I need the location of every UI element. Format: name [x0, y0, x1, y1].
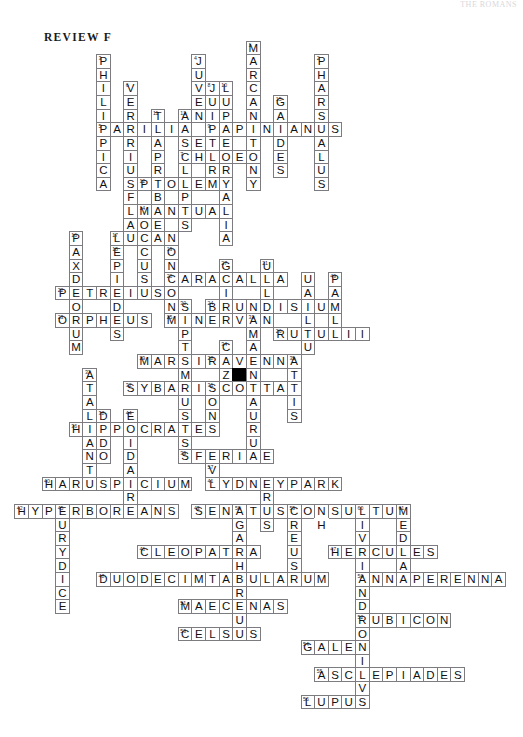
crossword-cell[interactable]: I: [355, 558, 370, 573]
crossword-cell[interactable]: 10L: [219, 81, 234, 96]
crossword-cell[interactable]: L: [151, 122, 166, 137]
crossword-cell[interactable]: S: [328, 667, 343, 682]
crossword-cell[interactable]: U: [341, 695, 356, 710]
crossword-cell[interactable]: N: [205, 409, 220, 424]
crossword-cell[interactable]: S: [178, 409, 193, 424]
crossword-cell[interactable]: U: [191, 68, 206, 83]
crossword-cell[interactable]: T: [82, 286, 97, 301]
crossword-cell[interactable]: 48D: [96, 572, 111, 587]
crossword-cell[interactable]: 24B: [205, 299, 220, 314]
crossword-cell[interactable]: O: [423, 613, 438, 628]
crossword-cell[interactable]: 28R: [205, 354, 220, 369]
crossword-cell[interactable]: A: [96, 177, 111, 192]
crossword-cell[interactable]: E: [396, 518, 411, 533]
crossword-cell[interactable]: T: [246, 136, 261, 151]
crossword-cell[interactable]: 21U: [260, 259, 275, 274]
crossword-cell[interactable]: L: [205, 627, 220, 642]
crossword-cell[interactable]: O: [69, 299, 84, 314]
crossword-cell[interactable]: R: [314, 95, 329, 110]
crossword-cell[interactable]: A: [178, 122, 193, 137]
crossword-cell[interactable]: 45E: [55, 504, 70, 519]
crossword-cell[interactable]: R: [232, 586, 247, 601]
crossword-cell[interactable]: T: [246, 504, 261, 519]
crossword-cell[interactable]: Y: [137, 381, 152, 396]
crossword-cell[interactable]: T: [287, 368, 302, 383]
crossword-cell[interactable]: N: [246, 163, 261, 178]
crossword-cell[interactable]: U: [246, 409, 261, 424]
crossword-cell[interactable]: C: [96, 163, 111, 178]
crossword-cell[interactable]: U: [232, 299, 247, 314]
crossword-cell[interactable]: K: [328, 477, 343, 492]
crossword-cell[interactable]: 2P: [314, 54, 329, 69]
crossword-cell[interactable]: U: [301, 340, 316, 355]
crossword-cell[interactable]: R: [260, 490, 275, 505]
crossword-cell[interactable]: S: [178, 136, 193, 151]
crossword-cell[interactable]: U: [110, 572, 125, 587]
crossword-cell[interactable]: E: [205, 449, 220, 464]
crossword-cell[interactable]: 32S: [123, 381, 138, 396]
crossword-cell[interactable]: E: [219, 136, 234, 151]
crossword-cell[interactable]: D: [137, 572, 152, 587]
crossword-cell[interactable]: H: [191, 150, 206, 165]
crossword-cell[interactable]: L: [123, 204, 138, 219]
crossword-cell[interactable]: 58A: [232, 504, 247, 519]
crossword-cell[interactable]: I: [151, 477, 166, 492]
crossword-cell[interactable]: D: [355, 599, 370, 614]
crossword-cell[interactable]: R: [314, 477, 329, 492]
crossword-cell[interactable]: N: [151, 504, 166, 519]
crossword-cell[interactable]: A: [232, 272, 247, 287]
crossword-cell[interactable]: 31S: [205, 381, 220, 396]
crossword-cell[interactable]: L: [260, 572, 275, 587]
crossword-cell[interactable]: I: [123, 150, 138, 165]
crossword-cell[interactable]: U: [287, 327, 302, 342]
crossword-cell[interactable]: U: [232, 613, 247, 628]
crossword-cell[interactable]: T: [301, 327, 316, 342]
crossword-cell[interactable]: R: [69, 504, 84, 519]
crossword-cell[interactable]: E: [110, 286, 125, 301]
crossword-cell[interactable]: 51M: [178, 599, 193, 614]
crossword-cell[interactable]: 20C: [164, 272, 179, 287]
crossword-cell[interactable]: P: [410, 572, 425, 587]
crossword-cell[interactable]: L: [178, 163, 193, 178]
crossword-cell[interactable]: A: [246, 395, 261, 410]
crossword-cell[interactable]: T: [287, 381, 302, 396]
crossword-cell[interactable]: 9P: [205, 122, 220, 137]
crossword-cell[interactable]: U: [382, 504, 397, 519]
crossword-cell[interactable]: 35A: [287, 354, 302, 369]
crossword-cell[interactable]: A: [301, 286, 316, 301]
crossword-cell[interactable]: S: [164, 504, 179, 519]
crossword-cell[interactable]: N: [260, 122, 275, 137]
crossword-cell[interactable]: L: [314, 150, 329, 165]
crossword-cell[interactable]: 13A: [178, 109, 193, 124]
crossword-cell[interactable]: U: [246, 572, 261, 587]
crossword-cell[interactable]: 39S: [178, 449, 193, 464]
crossword-cell[interactable]: E: [260, 477, 275, 492]
crossword-cell[interactable]: E: [423, 572, 438, 587]
crossword-cell[interactable]: 41L: [205, 477, 220, 492]
crossword-cell[interactable]: N: [82, 449, 97, 464]
crossword-cell[interactable]: N: [164, 231, 179, 246]
crossword-cell[interactable]: I: [396, 667, 411, 682]
crossword-cell[interactable]: A: [273, 109, 288, 124]
crossword-cell[interactable]: I: [96, 150, 111, 165]
crossword-cell[interactable]: D: [273, 136, 288, 151]
crossword-cell[interactable]: 1M: [246, 41, 261, 56]
crossword-cell[interactable]: P: [82, 313, 97, 328]
crossword-cell[interactable]: H: [96, 68, 111, 83]
crossword-cell[interactable]: L: [246, 272, 261, 287]
crossword-cell[interactable]: B: [151, 190, 166, 205]
crossword-cell[interactable]: S: [287, 409, 302, 424]
crossword-cell[interactable]: N: [355, 640, 370, 655]
crossword-cell[interactable]: D: [96, 436, 111, 451]
crossword-cell[interactable]: A: [491, 572, 506, 587]
crossword-cell[interactable]: N: [191, 313, 206, 328]
crossword-cell[interactable]: U: [314, 299, 329, 314]
crossword-cell[interactable]: U: [164, 477, 179, 492]
crossword-cell[interactable]: 23O: [55, 313, 70, 328]
crossword-cell[interactable]: 33A: [246, 313, 261, 328]
crossword-cell[interactable]: C: [341, 667, 356, 682]
crossword-cell[interactable]: I: [273, 299, 288, 314]
crossword-cell[interactable]: U: [123, 231, 138, 246]
crossword-cell[interactable]: C: [219, 381, 234, 396]
crossword-cell[interactable]: N: [191, 109, 206, 124]
